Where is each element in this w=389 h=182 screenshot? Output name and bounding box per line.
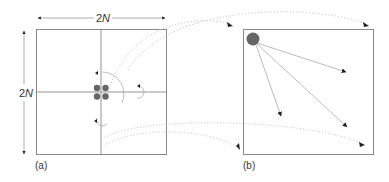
source-particle [247,33,260,46]
width-label: 2N [96,12,110,24]
mapping-arcs [101,12,366,148]
height-dimension-arrow: 2N [19,31,33,154]
panel-a-caption: (a) [35,160,47,171]
ray-arrows [256,43,347,127]
panel-b-caption: (b) [243,160,255,171]
height-label: 2N [19,87,33,99]
panel-a: 2N 2N (a) [19,12,167,171]
diagram-canvas: 2N 2N (a) [0,0,389,182]
width-dimension-arrow: 2N [38,12,165,24]
panel-b: (b) [243,30,374,172]
